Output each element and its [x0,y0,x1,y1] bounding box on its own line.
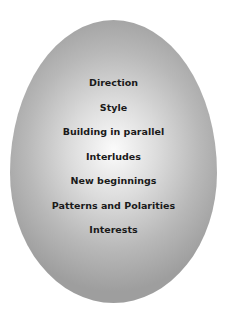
item-building-in-parallel: Building in parallel [63,120,164,145]
item-new-beginnings: New beginnings [71,169,157,194]
item-direction: Direction [89,71,138,96]
item-interests: Interests [89,218,137,243]
item-interludes: Interludes [86,145,141,170]
item-style: Style [100,96,127,121]
item-patterns-and-polarities: Patterns and Polarities [52,194,175,219]
item-list: Direction Style Building in parallel Int… [10,71,217,243]
